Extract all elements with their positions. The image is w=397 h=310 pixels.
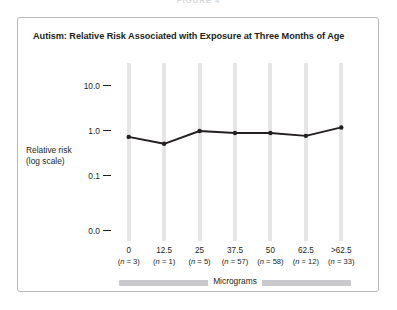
data-point-marker <box>127 135 131 139</box>
data-point-marker <box>233 131 237 135</box>
y-axis-tick-label: 0.0 <box>88 226 100 237</box>
y-axis-tick: 0.0 <box>88 226 111 237</box>
y-axis-tick: 10.0 <box>84 81 111 92</box>
data-point-marker <box>304 134 308 138</box>
y-axis-tick-label: 1.0 <box>88 126 100 137</box>
data-point-marker <box>162 142 166 146</box>
y-axis-tick-label: 10.0 <box>84 81 100 92</box>
figure-panel: Autism: Relative Risk Associated with Ex… <box>17 17 379 292</box>
data-point-marker <box>197 129 201 133</box>
y-axis-tick-mark <box>103 130 111 131</box>
data-series-polyline <box>129 127 342 143</box>
x-axis-title: Micrograms <box>111 276 359 286</box>
data-point-marker <box>339 125 343 129</box>
y-axis-tick-mark <box>103 230 111 231</box>
plot-area <box>111 63 359 241</box>
x-axis-title-text: Micrograms <box>208 276 262 286</box>
y-axis-tick-label: 0.1 <box>88 171 100 182</box>
y-axis-tick: 0.1 <box>88 171 111 182</box>
x-axis-tick-group: 0(n = 3)12.5(n = 1)25(n = 5)37.5(n = 57)… <box>111 245 359 269</box>
y-axis-label-line1: Relative risk <box>26 145 72 156</box>
y-axis-tick-mark <box>103 175 111 176</box>
y-axis-label: Relative risk (log scale) <box>26 145 72 166</box>
y-axis-tick-mark <box>103 85 111 86</box>
y-axis-label-line2: (log scale) <box>26 156 72 167</box>
x-axis-category: >62.5 <box>315 245 367 256</box>
y-axis-tick: 1.0 <box>88 126 111 137</box>
figure-caption: FIGURE 4 <box>0 0 397 4</box>
x-axis-tick-label: >62.5(n = 33) <box>315 245 367 267</box>
x-axis-sample-size: (n = 33) <box>315 256 367 267</box>
chart-title: Autism: Relative Risk Associated with Ex… <box>33 31 344 41</box>
data-series-line <box>111 63 359 241</box>
data-point-marker <box>268 131 272 135</box>
